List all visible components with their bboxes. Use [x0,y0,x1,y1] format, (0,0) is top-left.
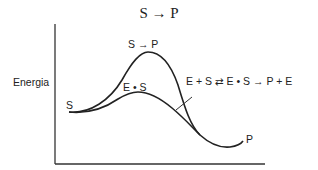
end-label: P [246,134,253,145]
y-axis-label: Energia [13,77,49,88]
catalyzed-reaction-label: E + S ⇄ E • S → P + E [186,76,292,87]
uncatalyzed-curve [69,52,243,147]
catalyzed-curve [69,92,200,135]
leader-line [176,97,192,110]
catalyzed-peak-label: E • S [123,82,147,93]
start-label: S [66,100,73,111]
uncatalyzed-peak-label: S → P [128,39,158,50]
